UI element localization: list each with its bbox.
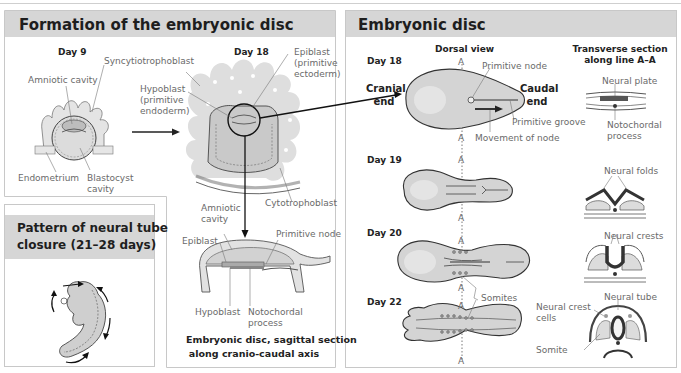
day19-dorsal-view [403, 170, 512, 210]
day20-dorsal-view [398, 241, 530, 282]
somite-label: Somite [536, 345, 568, 356]
somites-label: Somites [481, 293, 517, 304]
day18-transverse-section [586, 84, 646, 120]
notochordal-process-label: Notochordal process [607, 120, 662, 142]
movement-of-node-label: Movement of node [475, 133, 560, 144]
day20-row-label: Day 20 [367, 228, 402, 239]
axis-marker-top-day20: A [458, 236, 464, 247]
axis-marker-top-day19: A [458, 155, 464, 166]
axis-marker-top-day22: A [458, 301, 464, 312]
day22-transverse-section [584, 300, 646, 358]
day18-dorsal-view [406, 68, 525, 132]
day19-row-label: Day 19 [367, 155, 402, 166]
axis-marker-bottom-day22: A [458, 356, 464, 367]
axis-marker-bottom-day18: A [458, 133, 464, 144]
primitive-groove-label: Primitive groove [512, 117, 586, 128]
neural-tube-label: Neural tube [604, 292, 657, 303]
day22-row-label: Day 22 [367, 297, 402, 308]
neural-crests-label: Neural crests [604, 231, 663, 242]
primitive-node-label: Primitive node [482, 61, 547, 72]
neural-folds-label: Neural folds [604, 166, 658, 177]
day18-row-label: Day 18 [367, 56, 402, 67]
neural-plate-label: Neural plate [602, 76, 657, 87]
cranial-end-label: Cranial end [366, 82, 402, 108]
caudal-end-label: Caudal end [520, 82, 554, 108]
axis-marker-top-day18: A [458, 57, 464, 68]
axis-marker-bottom-day20: A [458, 283, 464, 294]
neural-crest-cells-label: Neural crest cells [536, 302, 591, 324]
day19-transverse-section [584, 176, 646, 218]
axis-marker-bottom-day19: A [458, 213, 464, 224]
